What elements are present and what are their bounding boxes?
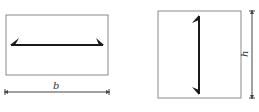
vertical-moment-arrow-icon	[192, 15, 199, 95]
height-label-h: h	[239, 51, 250, 57]
right-section-figure: h	[158, 10, 255, 99]
width-label-b: b	[53, 80, 59, 91]
diagram-canvas: b h	[0, 0, 259, 112]
horizontal-moment-arrow-icon	[10, 38, 104, 45]
left-section-figure: b	[4, 15, 110, 95]
